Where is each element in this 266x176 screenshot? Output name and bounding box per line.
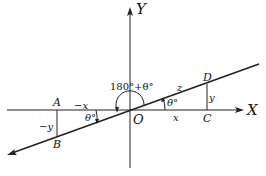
pos-x-label: x bbox=[173, 113, 179, 123]
radius-line bbox=[12, 64, 259, 153]
hyp-z-label: z bbox=[177, 83, 182, 93]
theta-right-label: θ° bbox=[167, 98, 178, 108]
point-B-label: B bbox=[53, 139, 61, 150]
neg-y-label: −y bbox=[39, 122, 53, 132]
theta-left-label: θ° bbox=[85, 113, 96, 123]
angle-180-theta-label: 180°+θ° bbox=[110, 82, 154, 92]
point-D-label: D bbox=[203, 72, 212, 83]
x-axis-label: X bbox=[247, 103, 258, 118]
point-C-label: C bbox=[203, 113, 211, 124]
origin-label: O bbox=[133, 113, 144, 126]
trig-diagram: Y X O A B C D −x x −y y z θ° θ° 180°+θ° bbox=[0, 0, 266, 176]
point-A-label: A bbox=[53, 97, 61, 108]
y-axis-label: Y bbox=[136, 2, 146, 17]
pos-y-label: y bbox=[209, 93, 215, 103]
neg-x-label: −x bbox=[74, 101, 88, 111]
